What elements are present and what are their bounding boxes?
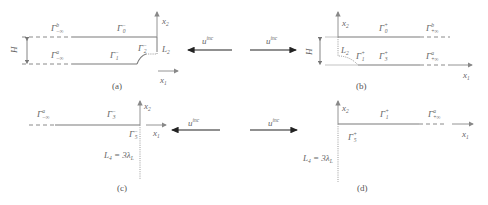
panel-b-top-far-label: Γb+∞ [425, 22, 439, 34]
waveguide-diagram: H Γb−∞ Γa−∞ Γ−0 Γ−1 Γ−2 L2 x2 x1 (a) uin… [0, 0, 488, 205]
panel-a-end-dotted [146, 52, 157, 54]
panel-c: Γa−∞ Γ−3 Γ−5 L4 = 3λL x2 x1 (c) [29, 101, 166, 193]
panel-a-top-near-label: Γ−0 [116, 22, 126, 34]
panel-d-caption: (d) [357, 183, 368, 193]
panel-b-x1-label: x1 [462, 70, 470, 81]
panel-a-end-label: L2 [161, 44, 170, 55]
panel-a-bottom-near-label: Γ−1 [109, 49, 119, 61]
incident-wave-bottom-left: uinc [172, 117, 220, 130]
panel-c-far-label: Γa−∞ [36, 108, 50, 120]
panel-d-x1-label: x1 [461, 129, 469, 140]
panel-d-x2-label: x2 [341, 103, 349, 114]
panel-b-end-label: L2 [340, 45, 349, 56]
panel-d-far-label: Γa+∞ [427, 108, 441, 120]
panel-d-vertical-label: Γ+5 [347, 131, 357, 143]
panel-a-x2-label: x2 [161, 16, 169, 27]
panel-b-caption: (b) [356, 81, 367, 91]
panel-c-x1-label: x1 [152, 128, 160, 139]
panel-d-near-label: Γ+1 [379, 108, 389, 120]
panel-b-bottom-far-label: Γa+∞ [425, 50, 439, 62]
incident-label: uinc [188, 117, 200, 128]
panel-b-bottom-near-label: Γ+3 [378, 50, 388, 62]
panel-a-x1-label: x1 [159, 75, 167, 86]
incident-label: uinc [268, 117, 280, 128]
panel-b-top-near-label: Γ+0 [378, 22, 388, 34]
panel-c-length-label: L4 = 3λL [103, 150, 134, 161]
incident-wave-top-right: uinc [250, 35, 296, 50]
panel-a-caption: (a) [112, 81, 122, 91]
incident-label: uinc [202, 35, 214, 46]
panel-b-x2-label: x2 [341, 18, 349, 29]
incident-label: uinc [266, 35, 278, 46]
incident-wave-top-left: uinc [188, 35, 232, 50]
panel-b-height-label: H [304, 48, 314, 56]
panel-c-near-label: Γ−3 [106, 108, 116, 120]
panel-a-step-label: Γ−2 [137, 42, 147, 54]
panel-a-height-label: H [9, 46, 19, 54]
panel-c-vertical-label: Γ−5 [128, 128, 138, 140]
panel-d-length-label: L4 = 3λL [302, 153, 333, 164]
panel-a-step [137, 54, 146, 64]
panel-c-x2-label: x2 [143, 101, 151, 112]
panel-b-bottom-step-label: Γ+1 [355, 50, 365, 62]
panel-c-caption: (c) [117, 183, 127, 193]
incident-wave-bottom-right: uinc [250, 117, 297, 130]
panel-d: x2 Γ+1 Γa+∞ Γ+5 L4 = 3λL x1 (d) [302, 101, 473, 193]
panel-a: H Γb−∞ Γa−∞ Γ−0 Γ−1 Γ−2 L2 x2 x1 (a) [9, 12, 178, 91]
panel-a-top-far-label: Γb−∞ [50, 22, 64, 34]
panel-b: H x2 Γ+0 Γb+∞ L2 Γ+1 Γ+3 Γa+∞ x1 (b) [304, 12, 472, 91]
panel-a-bottom-far-label: Γa−∞ [50, 49, 64, 61]
